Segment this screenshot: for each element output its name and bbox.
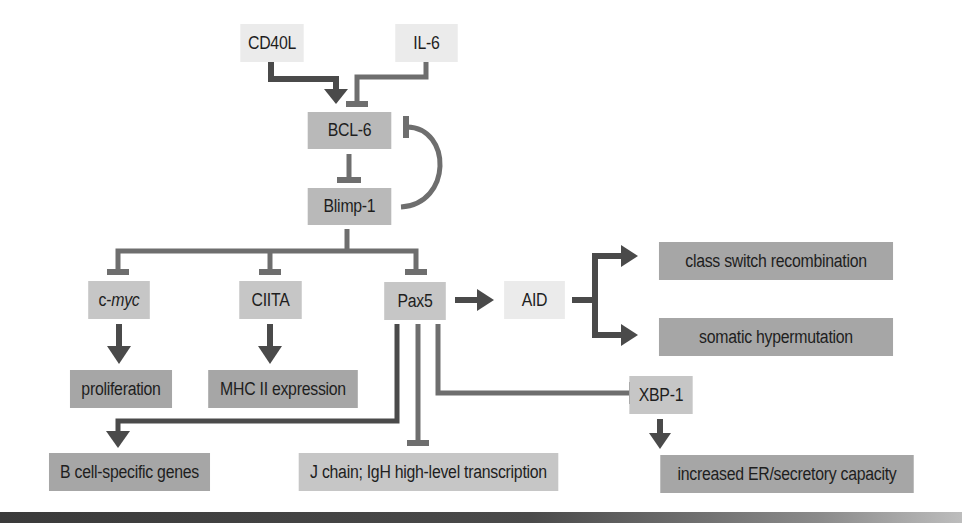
node-er-label: increased ER/secretory capacity: [678, 464, 897, 485]
node-aid-label: AID: [522, 290, 548, 311]
node-ciita: CIITA: [239, 281, 301, 319]
node-bcl6-label: BCL-6: [328, 120, 372, 141]
node-pax5: Pax5: [384, 282, 446, 320]
pax5-to-aid-arrow: [455, 289, 494, 311]
cd40l-to-bcl6-arrow: [271, 62, 348, 104]
node-cmyc-prefix: c-: [99, 290, 112, 310]
node-bcl6: BCL-6: [308, 112, 392, 149]
node-cd40l-label: CD40L: [248, 33, 296, 54]
node-blimp1: Blimp-1: [308, 188, 392, 225]
cmyc-to-proliferation-arrow: [107, 324, 131, 364]
node-shm-label: somatic hypermutation: [699, 327, 853, 348]
aid-branch-arrows: [572, 245, 638, 346]
node-proliferation: proliferation: [70, 370, 172, 408]
node-blimp1-label: Blimp-1: [324, 196, 376, 217]
blimp1-inhibits-bcl6-feedback: [401, 116, 440, 207]
bcl6-inhibits-blimp1: [337, 154, 361, 180]
node-jchain-igh: J chain; IgH high-level transcription: [299, 453, 559, 491]
xbp1-to-er-arrow: [649, 419, 671, 449]
ciita-to-mhc2-arrow: [258, 324, 282, 364]
node-mhc2-label: MHC II expression: [220, 379, 346, 400]
node-il6-label: IL-6: [413, 33, 439, 54]
node-proliferation-label: proliferation: [81, 379, 160, 400]
node-bcell-genes-label: B cell-specific genes: [60, 462, 199, 483]
node-mhc2-expression: MHC II expression: [208, 370, 358, 408]
node-cmyc-gene: myc: [111, 290, 139, 310]
node-jchain-label: J chain; IgH high-level transcription: [310, 462, 547, 483]
node-ciita-label: CIITA: [251, 290, 289, 311]
node-xbp1: XBP-1: [629, 376, 692, 414]
node-class-switch-label: class switch recombination: [685, 251, 867, 272]
node-bcell-specific-genes: B cell-specific genes: [49, 453, 210, 491]
pax5-inhibits-jchain: [407, 324, 429, 443]
node-somatic-hypermutation: somatic hypermutation: [659, 318, 893, 356]
regulatory-network-diagram: CD40L IL-6 BCL-6 Blimp-1 c-myc CIITA Pax…: [0, 0, 962, 523]
il6-inhibits-bcl6: [346, 62, 426, 104]
node-il6: IL-6: [395, 24, 457, 62]
node-pax5-label: Pax5: [397, 291, 432, 312]
node-cmyc: c-myc: [88, 281, 150, 319]
node-xbp1-label: XBP-1: [639, 385, 683, 406]
bottom-border-bar: [0, 512, 962, 523]
node-class-switch-recombination: class switch recombination: [659, 242, 893, 280]
node-aid: AID: [504, 281, 565, 319]
node-er-secretory-capacity: increased ER/secretory capacity: [660, 455, 913, 493]
node-cd40l: CD40L: [240, 24, 303, 62]
blimp1-inhibition-bus: [107, 229, 427, 272]
node-cmyc-label: c-myc: [99, 290, 140, 311]
